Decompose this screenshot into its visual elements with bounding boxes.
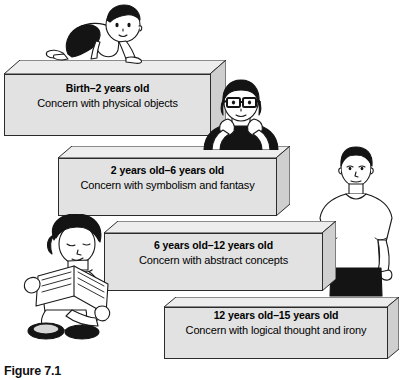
stage-step-4: 12 years old–15 years old Concern with l… <box>164 297 399 359</box>
stage-step-1: Birth–2 years old Concern with physical … <box>4 60 226 136</box>
seated-child-reading-illustration <box>16 214 128 340</box>
stage-step-2: 2 years old–6 years old Concern with sym… <box>58 146 290 216</box>
slab-face-1 <box>4 74 211 136</box>
crawling-baby-illustration <box>42 0 160 66</box>
figure-caption: Figure 7.1 <box>4 364 61 378</box>
slab-face-3 <box>104 233 323 291</box>
slab-face-2 <box>58 158 277 216</box>
child-with-glasses-illustration <box>198 78 284 150</box>
stage-step-3: 6 years old–12 years old Concern with ab… <box>104 221 336 291</box>
slab-face-4 <box>164 307 388 359</box>
figure-container: Birth–2 years old Concern with physical … <box>0 0 403 380</box>
